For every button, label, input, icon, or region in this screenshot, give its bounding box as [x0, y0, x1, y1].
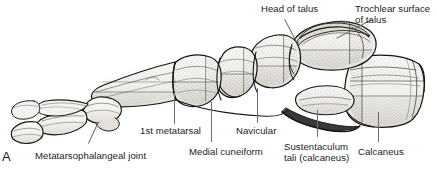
leader-first-metatarsal [174, 92, 175, 124]
label-trochlear-surface-of-talus: Trochlear surface of talus [355, 3, 430, 25]
leader-calcaneus [378, 112, 379, 142]
leader-medial-cuneiform [211, 102, 212, 142]
anatomical-figure-panel-a: Head of talus Trochlear surface of talus… [0, 0, 437, 173]
label-first-metatarsal: 1st metatarsal [140, 125, 201, 136]
label-medial-cuneiform: Medial cuneiform [189, 146, 263, 157]
label-sustentaculum-tali: Sustentaculum tali (calcaneus) [284, 141, 349, 163]
leader-sustentaculum-tali [317, 110, 318, 137]
label-navicular: Navicular [236, 125, 276, 136]
panel-letter-a: A [2, 150, 11, 163]
label-metatarsophalangeal-joint: Metatarsophalangeal joint [35, 150, 146, 161]
leader-navicular [257, 88, 258, 123]
bone-first-metatarsal [83, 60, 182, 131]
label-calcaneus: Calcaneus [358, 146, 404, 157]
bone-distal-phalanx [11, 122, 43, 144]
label-head-of-talus: Head of talus [261, 3, 318, 14]
